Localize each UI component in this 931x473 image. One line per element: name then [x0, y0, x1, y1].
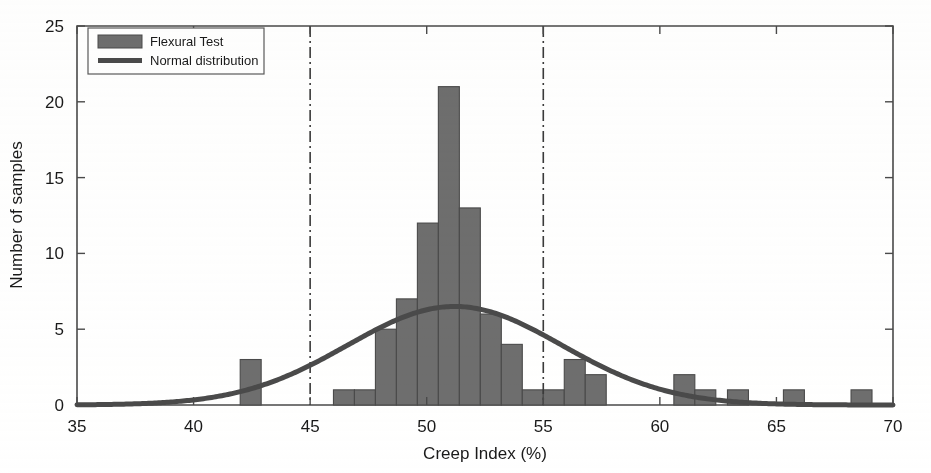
x-tick-label: 50	[417, 417, 436, 436]
x-tick-label: 40	[184, 417, 203, 436]
x-tick-label: 45	[301, 417, 320, 436]
legend-label-normal-distribution: Normal distribution	[150, 53, 258, 68]
legend-line-normal-distribution	[98, 58, 142, 63]
x-tick-label: 35	[68, 417, 87, 436]
x-axis-label: Creep Index (%)	[423, 444, 547, 463]
histogram-bar	[564, 360, 585, 405]
histogram-bar	[375, 329, 396, 405]
histogram-bar	[240, 360, 261, 405]
creep-index-histogram: 3540455055606570 0510152025 Creep Index …	[0, 0, 931, 473]
y-tick-label: 0	[55, 396, 64, 415]
histogram-bar	[480, 314, 501, 405]
histogram-bar	[501, 344, 522, 405]
y-tick-label: 20	[45, 93, 64, 112]
x-tick-label: 60	[650, 417, 669, 436]
y-tick-label: 10	[45, 244, 64, 263]
histogram-bar	[543, 390, 564, 405]
y-axis-label: Number of samples	[7, 141, 26, 288]
histogram-bar	[417, 223, 438, 405]
y-tick-label: 15	[45, 169, 64, 188]
x-tick-label: 65	[767, 417, 786, 436]
legend-swatch-flexural-test	[98, 35, 142, 48]
x-tick-label: 55	[534, 417, 553, 436]
y-tick-label: 5	[55, 320, 64, 339]
chart-legend: Flexural Test Normal distribution	[88, 28, 264, 74]
x-tick-label: 70	[884, 417, 903, 436]
histogram-bar	[522, 390, 543, 405]
y-tick-label: 25	[45, 17, 64, 36]
histogram-bar	[354, 390, 375, 405]
histogram-bar	[438, 87, 459, 405]
histogram-bar	[585, 375, 606, 405]
legend-label-flexural-test: Flexural Test	[150, 34, 224, 49]
histogram-figure: 3540455055606570 0510152025 Creep Index …	[0, 0, 931, 473]
histogram-bar	[674, 375, 695, 405]
histogram-bar	[333, 390, 354, 405]
